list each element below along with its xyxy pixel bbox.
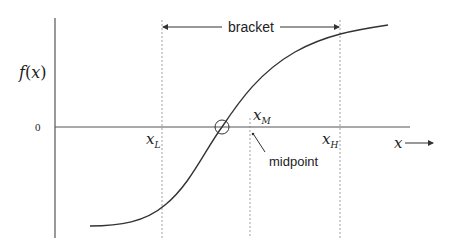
bisection-diagram: bracket midpoint f(x) 0 xL xM xH x xyxy=(0,0,452,252)
function-curve xyxy=(90,25,388,226)
bracket-label: bracket xyxy=(228,19,274,35)
midpoint-pointer xyxy=(254,135,265,152)
zero-label: 0 xyxy=(35,121,41,133)
y-axis-label: f(x) xyxy=(18,63,46,82)
midpoint-label: midpoint xyxy=(269,154,319,169)
x-low-label: xL xyxy=(146,130,160,150)
midpoint-dot xyxy=(252,133,255,136)
x-mid-label: xM xyxy=(253,106,271,126)
x-high-label: xH xyxy=(322,130,338,150)
x-axis-label: x xyxy=(394,134,403,152)
